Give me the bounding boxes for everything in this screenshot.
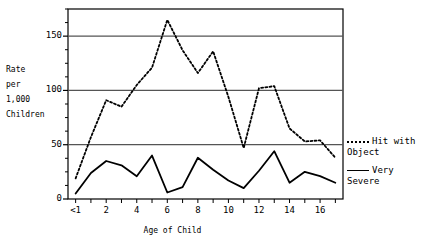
legend-swatch-solid-line	[347, 170, 369, 171]
line-chart-figure: Rate per 1,000 Children Age of Child 050…	[0, 0, 437, 250]
legend-label-hit-with-object: Hit with Object	[347, 136, 415, 157]
legend-entry-very-severe: Very Severe	[347, 165, 437, 187]
legend-swatch-dotted-line	[347, 141, 369, 143]
plot-area	[0, 0, 437, 250]
chart-legend: Hit with Object Very Severe	[347, 136, 437, 194]
legend-entry-hit-with-object: Hit with Object	[347, 136, 437, 158]
legend-label-very-severe: Very Severe	[347, 165, 394, 186]
